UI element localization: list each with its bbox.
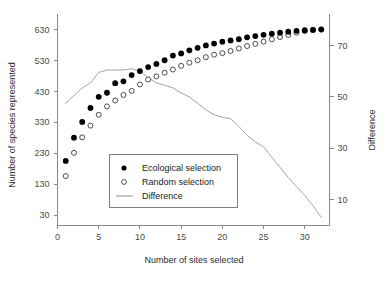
data-point-random (146, 77, 151, 82)
data-point-random (212, 52, 217, 57)
right-axis-ticks: 10305070 (330, 41, 348, 205)
data-point-ecological (277, 30, 283, 36)
data-point-random (228, 48, 233, 53)
right-tick-label: 10 (338, 195, 348, 205)
bottom-tick-label: 15 (176, 232, 186, 242)
right-tick-label: 30 (338, 143, 348, 153)
bottom-tick-label: 25 (259, 232, 269, 242)
data-point-random (203, 55, 208, 60)
data-point-ecological (285, 29, 291, 35)
data-point-ecological (186, 47, 192, 53)
y-axis-label: Number of species represented (7, 62, 17, 188)
right-tick-label: 50 (338, 92, 348, 102)
data-point-random (104, 104, 109, 109)
data-point-random (179, 63, 184, 68)
data-point-random (96, 112, 101, 117)
legend-marker-random-selection (122, 180, 127, 185)
data-point-ecological (310, 27, 316, 33)
chart-figure: 30130230330430530630 051015202530 103050… (0, 0, 389, 281)
chart-legend: Ecological selection Random selection Di… (109, 154, 237, 207)
data-point-ecological (79, 119, 85, 125)
data-point-ecological (294, 28, 300, 34)
left-tick-label: 130 (34, 179, 49, 189)
left-axis-ticks: 30130230330430530630 (34, 25, 57, 221)
data-point-ecological (170, 53, 176, 59)
data-point-ecological (104, 90, 110, 96)
bottom-axis-ticks: 051015202530 (55, 225, 310, 242)
legend-label-ecological-selection: Ecological selection (142, 163, 221, 173)
data-point-ecological (137, 68, 143, 74)
data-point-ecological (302, 27, 308, 33)
data-point-random (154, 74, 159, 79)
data-point-ecological (121, 78, 127, 84)
data-point-ecological (228, 38, 234, 44)
data-point-random (71, 150, 76, 155)
legend-label-random-selection: Random selection (142, 177, 214, 187)
data-point-random (245, 44, 250, 49)
data-point-random (162, 70, 167, 75)
bottom-tick-label: 10 (135, 232, 145, 242)
x-axis-label: Number of sites selected (144, 255, 243, 265)
bottom-tick-label: 5 (96, 232, 101, 242)
data-point-ecological (219, 39, 225, 45)
data-point-random (220, 51, 225, 56)
data-point-ecological (252, 33, 258, 39)
data-point-random (80, 135, 85, 140)
data-point-ecological (88, 105, 94, 111)
secondary-y-axis-label: Difference (367, 110, 377, 151)
left-tick-label: 530 (34, 56, 49, 66)
data-point-ecological (63, 158, 69, 164)
data-point-ecological (236, 36, 242, 42)
data-point-ecological (203, 42, 209, 48)
data-point-ecological (178, 51, 184, 57)
data-point-random (253, 41, 258, 46)
data-point-ecological (261, 32, 267, 38)
data-point-random (170, 67, 175, 72)
data-point-random (261, 39, 266, 44)
data-point-random (137, 82, 142, 87)
data-point-random (113, 98, 118, 103)
data-point-ecological (71, 135, 77, 141)
bottom-tick-label: 0 (55, 232, 60, 242)
left-tick-label: 630 (34, 25, 49, 35)
right-tick-label: 70 (338, 41, 348, 51)
ecological-selection-points (63, 27, 324, 164)
data-point-ecological (112, 80, 118, 86)
data-point-random (187, 60, 192, 65)
data-point-random (88, 123, 93, 128)
data-point-ecological (129, 72, 135, 78)
data-point-ecological (96, 94, 102, 100)
data-point-random (236, 46, 241, 51)
data-point-ecological (244, 34, 250, 40)
data-point-ecological (318, 27, 324, 33)
bottom-tick-label: 30 (300, 232, 310, 242)
left-tick-label: 430 (34, 87, 49, 97)
data-point-ecological (211, 41, 217, 47)
data-point-ecological (195, 45, 201, 51)
left-tick-label: 230 (34, 148, 49, 158)
left-tick-label: 330 (34, 117, 49, 127)
data-point-ecological (162, 57, 168, 63)
data-point-ecological (154, 61, 160, 67)
data-point-random (121, 92, 126, 97)
data-point-random (269, 37, 274, 42)
legend-marker-ecological-selection (121, 165, 126, 170)
data-point-random (129, 88, 134, 93)
data-point-random (195, 58, 200, 63)
species-accumulation-chart: 30130230330430530630 051015202530 103050… (0, 0, 389, 281)
legend-label-difference: Difference (142, 191, 183, 201)
data-point-ecological (145, 64, 151, 70)
bottom-tick-label: 20 (217, 232, 227, 242)
left-tick-label: 30 (39, 210, 49, 220)
data-point-random (63, 174, 68, 179)
data-point-ecological (269, 31, 275, 37)
